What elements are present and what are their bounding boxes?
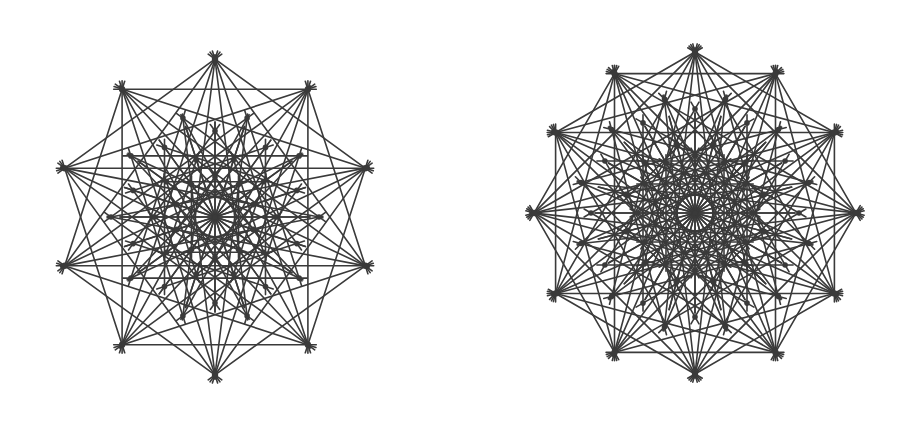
vertex-point: [721, 260, 727, 266]
vertex-point: [212, 174, 218, 180]
edge-line: [771, 66, 860, 220]
vertex-point: [609, 294, 615, 300]
vertex-point: [194, 271, 200, 277]
vertex-point: [128, 275, 134, 281]
vertex-point: [744, 120, 750, 126]
vertex-point: [164, 250, 170, 256]
vertex-point: [61, 165, 67, 171]
diagram-canvas: [0, 0, 911, 423]
vertex-point: [611, 349, 617, 355]
vertex-point: [272, 214, 278, 220]
vertex-point: [642, 181, 648, 187]
vertex-point: [296, 153, 302, 159]
vertex-point: [305, 86, 311, 92]
vertex-point: [663, 260, 669, 266]
vertex-point: [212, 254, 218, 260]
vertex-point: [162, 145, 168, 151]
vertex-point: [119, 342, 125, 348]
vertex-point: [362, 263, 368, 269]
vertex-point: [231, 157, 237, 163]
vertex-point: [692, 106, 698, 112]
ten-fold-star-configuration: [56, 51, 373, 383]
edge-line: [548, 289, 702, 378]
vertex-point: [263, 145, 269, 151]
vertex-point: [128, 153, 134, 159]
vertex-point: [831, 129, 837, 135]
vertex-point: [180, 115, 186, 121]
vertex-point: [782, 262, 788, 268]
vertex-point: [261, 250, 267, 256]
vertex-point: [212, 300, 218, 306]
vertex-point: [611, 70, 617, 76]
vertex-point: [231, 271, 237, 277]
vertex-point: [236, 247, 242, 253]
vertex-point: [174, 202, 180, 208]
vertex-point: [642, 239, 648, 245]
vertex-point: [692, 314, 698, 320]
vertex-point: [750, 210, 756, 216]
vertex-point: [263, 284, 269, 290]
vertex-point: [244, 115, 250, 121]
vertex-point: [294, 188, 300, 194]
vertex-point: [212, 372, 218, 378]
vertex-point: [776, 127, 782, 133]
vertex-point: [130, 188, 136, 194]
vertex-point: [782, 158, 788, 164]
vertex-point: [772, 70, 778, 76]
vertex-point: [602, 262, 608, 268]
vertex-point: [692, 371, 698, 377]
vertex-point: [130, 241, 136, 247]
vertex-point: [692, 152, 698, 158]
vertex-point: [711, 141, 717, 147]
vertex-point: [693, 211, 698, 216]
edge-line: [771, 206, 860, 360]
vertex-point: [212, 128, 218, 134]
vertex-point: [362, 165, 368, 171]
vertex-point: [261, 179, 267, 185]
vertex-point: [250, 202, 256, 208]
edge-line: [530, 66, 619, 220]
vertex-point: [806, 241, 812, 247]
vertex-point: [174, 227, 180, 233]
vertex-point: [531, 210, 537, 216]
vertex-point: [623, 229, 629, 235]
vertex-point: [641, 261, 647, 267]
vertex-point: [61, 263, 67, 269]
vertex-point: [213, 215, 218, 220]
edge-line: [548, 48, 702, 137]
vertex-point: [853, 210, 859, 216]
vertex-point: [578, 180, 584, 186]
vertex-point: [743, 261, 749, 267]
vertex-point: [250, 227, 256, 233]
vertex-point: [602, 158, 608, 164]
vertex-point: [119, 86, 125, 92]
vertex-point: [162, 284, 168, 290]
twelve-fold-star-configuration: [526, 44, 864, 382]
vertex-point: [296, 275, 302, 281]
vertex-point: [662, 96, 668, 102]
vertex-point: [640, 120, 646, 126]
vertex-point: [189, 247, 195, 253]
vertex-point: [641, 159, 647, 165]
vertex-point: [609, 127, 615, 133]
vertex-point: [663, 160, 669, 166]
vertex-point: [552, 290, 558, 296]
vertex-point: [180, 313, 186, 319]
vertex-point: [674, 280, 680, 286]
vertex-point: [762, 229, 768, 235]
vertex-point: [194, 157, 200, 163]
vertex-point: [152, 214, 158, 220]
vertex-point: [164, 179, 170, 185]
vertex-point: [744, 300, 750, 306]
edge-line: [530, 206, 619, 360]
vertex-point: [578, 241, 584, 247]
vertex-point: [108, 214, 114, 220]
vertex-point: [806, 180, 812, 186]
vertex-point: [742, 239, 748, 245]
vertex-point: [692, 268, 698, 274]
vertex-point: [743, 159, 749, 165]
vertex-point: [662, 324, 668, 330]
vertex-point: [711, 280, 717, 286]
vertex-point: [674, 141, 680, 147]
vertex-point: [796, 210, 802, 216]
